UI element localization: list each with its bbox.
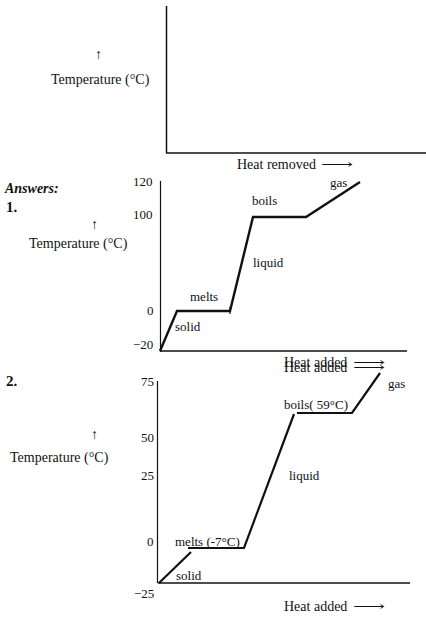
answer1-ylabel: Temperature (°C) [29,237,127,251]
answer2-tick-neg25: −25 [134,587,154,600]
answer1-label-solid: solid [175,320,200,333]
answer2-heating-curve-main [188,414,294,548]
answer2-label-melts: melts (-7°C) [175,535,240,548]
answer1-tick-0: 0 [147,304,154,317]
blank-chart-ylabel: Temperature (°C) [51,73,149,87]
answer1-label-gas: gas [330,176,347,189]
arrow-right-icon: ⟶ [353,600,385,614]
answer1-tick-neg20: −20 [133,338,153,351]
xlabel-text: Heat removed [237,157,316,172]
arrow-right-icon: ⟶ [321,158,353,172]
blank-chart-axes [166,6,426,153]
answer1-label-liquid: liquid [253,256,283,269]
answer2-tick-50: 50 [141,431,154,444]
answer2-xlabel: Heat added ⟶ [284,600,373,614]
answer2-tick-75: 75 [141,375,154,388]
answer2-label-solid: solid [176,569,201,582]
answer1-tick-100: 100 [133,208,153,221]
arrow-right-icon: ⟶ [353,361,385,375]
answer1-tick-120: 120 [133,175,153,188]
answer2-ylabel: Temperature (°C) [10,451,108,465]
answer2-tick-25: 25 [141,469,154,482]
answer1-number: 1. [6,200,17,215]
blank-chart-xlabel: Heat removed ⟶ [237,158,342,172]
xlabel-text: Heat added [284,599,347,614]
answer2-label-gas: gas [388,377,405,390]
answers-heading: Answers: [5,182,59,196]
answer2-label-liquid: liquid [289,469,319,482]
arrow-up-icon: ↑ [95,48,102,62]
plot-canvas [0,0,426,617]
arrow-up-icon: ↑ [91,428,98,442]
answer2-label-boils: boils( 59°C) [284,398,348,411]
answer1-label-boils: boils [252,194,277,207]
answer2-number: 2. [6,374,17,389]
arrow-up-icon: ↑ [91,218,98,232]
answer2-tick-0: 0 [147,535,154,548]
answer2-xlabel-top: Heat added ⟶ [284,361,373,375]
answer1-label-melts: melts [190,290,218,303]
xlabel-text: Heat added [284,360,347,375]
